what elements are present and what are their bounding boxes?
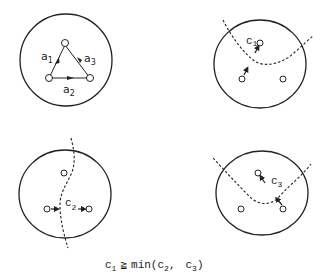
node: [280, 76, 286, 82]
node: [62, 40, 69, 47]
cut-label-c2: c2: [65, 197, 77, 212]
node: [280, 206, 286, 212]
panel-bottom-left: c2: [19, 138, 111, 248]
cut-label-c3: c3: [271, 175, 283, 189]
node: [44, 206, 50, 212]
region-circle: [216, 151, 308, 235]
edge-label-a1: a1: [41, 50, 53, 65]
edge-label-a3: a3: [84, 52, 96, 67]
node: [239, 76, 245, 82]
region-circle: [19, 150, 111, 238]
region-circle: [214, 20, 306, 108]
arrow-icon: [67, 76, 74, 80]
panel-top-left: a1 a2 a3: [20, 14, 112, 106]
diagram-figure: a1 a2 a3 c1 c2 c3 c1≧min(c2,c3): [0, 0, 332, 278]
arrow-icon: [277, 199, 282, 205]
node: [86, 206, 92, 212]
node: [87, 75, 94, 82]
equation: c1≧min(c2,c3): [105, 259, 204, 273]
arrow-icon: [244, 69, 247, 75]
cut-line: [60, 138, 74, 248]
node: [46, 75, 53, 82]
panel-bottom-right: c3: [213, 151, 311, 235]
node: [257, 40, 263, 46]
node: [255, 170, 261, 176]
node: [61, 170, 67, 176]
edge-label-a2: a2: [63, 83, 75, 98]
cut-label-c1: c1: [246, 35, 258, 48]
arrow-icon: [55, 57, 60, 64]
node: [238, 206, 244, 212]
arrow-icon: [261, 177, 265, 183]
panel-top-right: c1: [214, 20, 313, 108]
